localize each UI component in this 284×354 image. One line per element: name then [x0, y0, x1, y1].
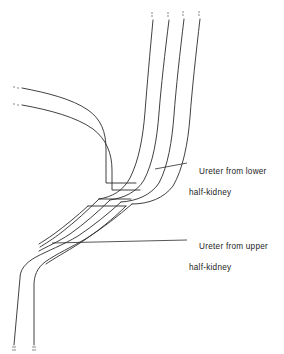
upper-ureter-strand-lower	[22, 105, 140, 190]
label-ureter-from-upper-half-kidney: Ureter from upper half-kidney	[189, 232, 268, 293]
upper-half-kidney-ureter-strands	[22, 88, 140, 190]
label-lower-line2: half-kidney	[189, 188, 267, 198]
descending-ureter-strands	[14, 199, 132, 345]
upper-ureter-strand-upper	[22, 88, 136, 183]
label-upper-line1: Ureter from upper	[199, 242, 268, 251]
break-mark-left-2	[13, 104, 19, 105]
break-mark-top-1	[151, 13, 153, 16]
break-marks-top	[151, 12, 200, 16]
break-mark-left-1	[13, 87, 19, 88]
ureter-anatomy-figure: Ureter from lower half-kidney Ureter fro…	[0, 0, 284, 354]
lower-half-kidney-ureter-strands	[99, 19, 200, 204]
lower-ureter-strand-outer-left	[99, 20, 153, 199]
break-mark-top-4	[198, 12, 200, 15]
break-mark-top-2	[167, 13, 169, 16]
leader-line-lower-ureter	[155, 163, 187, 169]
break-mark-bottom-1	[12, 347, 16, 350]
lower-ureter-strand-inner-left	[110, 20, 169, 200]
label-ureter-from-lower-half-kidney: Ureter from lower half-kidney	[189, 157, 267, 218]
break-mark-top-3	[182, 12, 184, 15]
descending-strand-a1	[34, 204, 132, 345]
label-upper-line2: half-kidney	[189, 263, 268, 273]
descending-strand-b1	[39, 200, 110, 251]
leader-line-upper-ureter	[52, 240, 187, 243]
break-marks-bottom	[12, 347, 36, 350]
lower-ureter-strand-inner-right	[121, 19, 184, 202]
break-mark-bottom-2	[32, 347, 36, 350]
break-marks-left	[13, 87, 19, 105]
label-lower-line1: Ureter from lower	[199, 167, 267, 176]
